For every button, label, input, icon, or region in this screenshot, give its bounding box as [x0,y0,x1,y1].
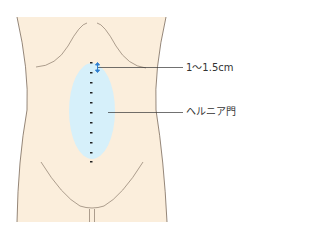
hernia-gate-area [69,63,115,159]
hernia-gate-label: ヘルニア門 [186,107,236,117]
distance-label: 1～1.5cm [186,63,234,73]
